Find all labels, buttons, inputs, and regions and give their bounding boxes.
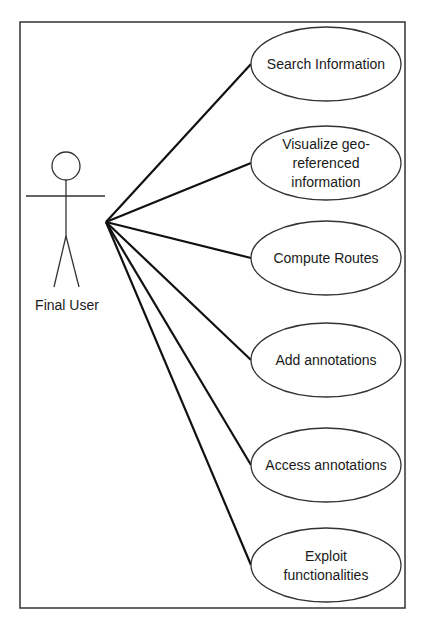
use-case-access-annotations: Access annotations [251,428,401,502]
association-routes [106,222,251,258]
use-case-label: Visualize geo- [282,136,370,152]
use-case-label: referenced [293,155,360,171]
use-case-exploit: Exploitfunctionalities [251,528,401,602]
use-case-label: functionalities [284,567,369,583]
use-case-label: Add annotations [275,352,376,368]
association-search [106,64,251,222]
use-case-search: Search Information [251,27,401,101]
use-case-label: information [291,174,360,190]
actor-head [52,152,80,180]
actor-right-leg [66,236,79,287]
use-case-label: Search Information [267,56,385,72]
use-case-diagram: Final User Search InformationVisualize g… [0,0,423,625]
association-add-annotations [106,222,251,360]
use-case-label: Access annotations [265,457,386,473]
use-case-routes: Compute Routes [251,221,401,295]
actor-left-leg [54,236,66,287]
use-case-visualize: Visualize geo-referencedinformation [251,126,401,200]
use-cases: Search InformationVisualize geo-referenc… [251,27,401,602]
use-case-ellipse [251,528,401,602]
use-case-label: Exploit [305,548,347,564]
use-case-add-annotations: Add annotations [251,323,401,397]
association-visualize [106,163,251,222]
use-case-label: Compute Routes [273,250,378,266]
association-access-annotations [106,222,251,465]
system-boundary [20,22,405,608]
association-exploit [106,222,251,565]
associations [106,64,251,565]
actor-label: Final User [35,297,99,313]
actor-final-user: Final User [26,152,105,313]
